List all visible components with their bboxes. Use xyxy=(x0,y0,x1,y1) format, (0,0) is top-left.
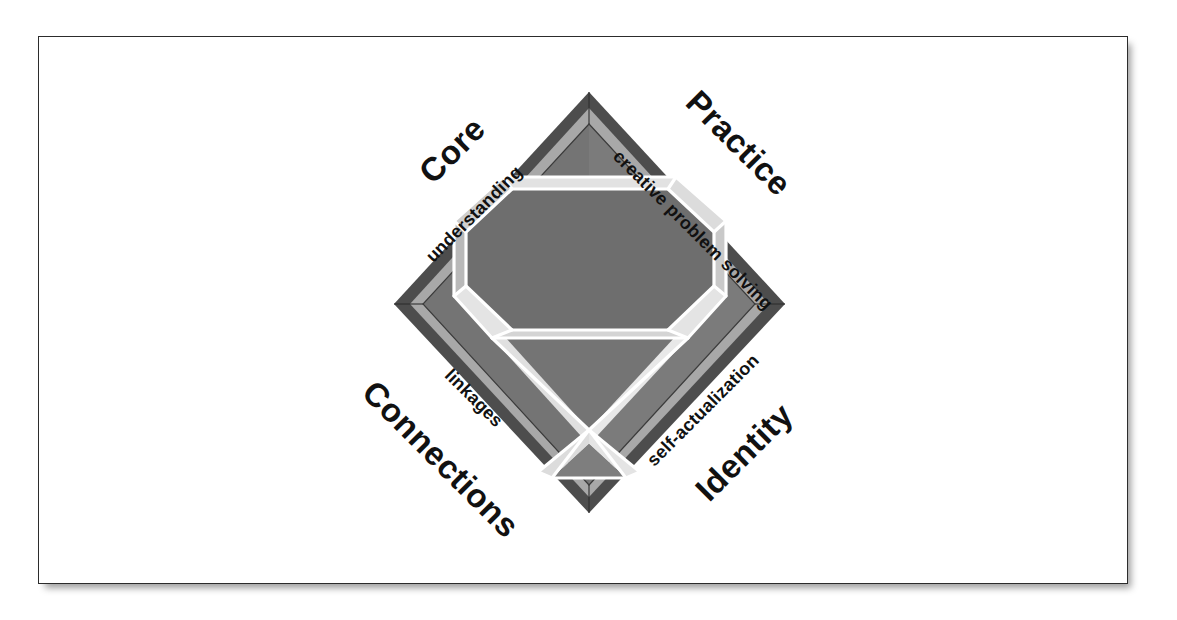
figure-canvas: Core understanding Practice creative pro… xyxy=(0,0,1177,620)
diagram-svg xyxy=(0,0,1177,620)
diamond-diagram xyxy=(0,0,1177,620)
